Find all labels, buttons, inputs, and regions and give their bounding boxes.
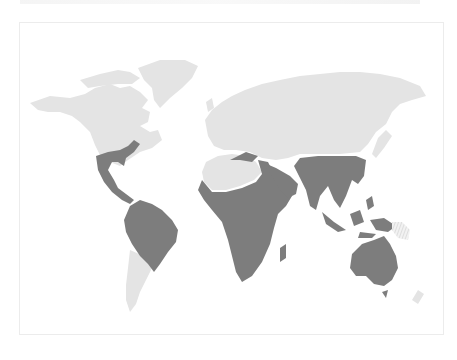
region-indonesia-philippines xyxy=(322,196,376,238)
world-map xyxy=(0,0,457,360)
hatched-zone-layer xyxy=(392,222,410,240)
region-north-america xyxy=(30,84,162,166)
region-eurasia xyxy=(205,72,426,160)
region-south-asia-indochina xyxy=(294,156,366,210)
region-japan xyxy=(372,130,392,158)
region-tasmania xyxy=(382,290,388,298)
region-new-zealand xyxy=(412,290,424,304)
region-madagascar xyxy=(280,244,286,262)
region-pacific-islands-hatched xyxy=(392,222,410,240)
region-australia xyxy=(350,236,398,286)
